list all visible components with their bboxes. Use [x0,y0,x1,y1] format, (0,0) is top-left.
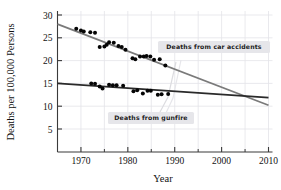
data-point [112,41,116,45]
y-tick-label: 20 [43,56,53,66]
x-tick-label: 2000 [212,156,231,166]
y-tick-label: 25 [43,33,53,43]
x-tick-label: 1970 [71,156,90,166]
data-point [93,31,97,35]
x-tick-label: 2010 [259,156,278,166]
data-point [107,83,111,87]
data-point [149,89,153,93]
data-point [111,83,115,87]
chart-container: 5101520253019701980199020002010 Deaths p… [0,0,281,190]
data-point [98,45,102,49]
data-point [160,92,164,96]
data-point [89,81,93,85]
data-point [138,54,142,58]
data-point [135,88,139,92]
y-axis-label: Deaths per 100,000 Persons [5,23,16,140]
data-point [74,27,78,31]
data-point [123,48,127,52]
annotation-car-accidents-label: Deaths from car accidents [166,43,262,50]
data-point [158,57,162,61]
y-tick-label: 15 [43,79,53,89]
y-tick-label: 5 [48,125,53,135]
data-point [120,45,124,49]
x-axis-label: Year [153,173,173,184]
data-point [141,91,145,95]
annotation-gunfire-label: Deaths from gunfire [114,114,187,122]
data-point [115,83,119,87]
data-point [82,29,86,33]
data-point [88,30,92,34]
data-point [101,86,105,90]
y-tick-label: 10 [43,102,53,112]
data-point [148,54,152,58]
data-point [131,89,135,93]
y-tick-label: 30 [43,11,53,21]
data-point [152,58,156,62]
data-point [121,84,125,88]
data-point [156,93,160,97]
data-point [133,57,137,61]
x-tick-label: 1980 [118,156,137,166]
deaths-scatter-chart: 5101520253019701980199020002010 Deaths p… [0,0,281,190]
data-point [93,82,97,86]
data-point [107,40,111,44]
data-point [163,64,167,68]
x-tick-label: 1990 [165,156,184,166]
data-point [166,92,170,96]
data-point [145,54,149,58]
